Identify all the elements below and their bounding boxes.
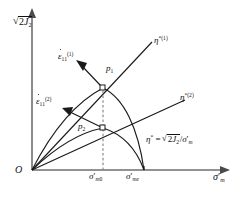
point-p1-label: p1 [106,64,113,74]
point-p1-marker [100,85,105,90]
x-axis-label: σ′m [213,172,225,183]
origin-label: O [15,165,22,175]
yield-curve-2 [32,128,144,170]
eta-star-formula: η* = 2J2/σ′m [146,134,193,145]
point-p2-label: p2 [78,122,85,132]
strain-rate-1-label: ε11(1) [58,52,73,62]
strain-rate-1-arrow [76,60,101,86]
sigma-m0-label: σ′m0 [89,172,102,182]
eta-star-2-label: η*(2) [180,93,194,102]
eta-star-1-label: η*(1) [154,36,168,45]
y-axis [28,8,36,170]
figure-container: 2J2 σ′m O ε11(1) ε11(2) η*(1) η*(2) p1 p… [0,0,242,197]
y-axis-label: 2J2 [14,16,32,28]
point-p2-marker [100,125,105,130]
sigma-me-label: σ′me [126,172,139,182]
strain-rate-2-label: ε11(2) [36,97,51,107]
